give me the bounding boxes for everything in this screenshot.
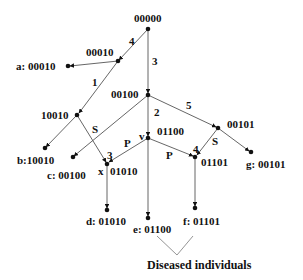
leaf-e [146,216,151,221]
node-00100 [146,93,151,98]
edge-00010-a [70,61,118,66]
label-00100: 00100 [111,89,139,100]
edge-label-00010-10010: 1 [92,77,98,88]
edge-label-v-x-p: P [124,138,131,149]
label-01100: 01100 [157,126,184,137]
edge-label-root-00010: 4 [129,36,135,47]
node-x [105,162,110,167]
leaf-b [43,146,48,151]
label-leaf-e: e: 01100 [133,224,171,235]
edge-label-00101-01101-s: S [212,136,218,147]
edge-00010-10010 [79,61,118,113]
edge-00101-g [218,128,249,151]
edge-label-v-01101-p: P [166,150,173,161]
edge-label-00100-00101: 5 [186,100,192,111]
label-01101: 01101 [201,157,228,168]
node-10010 [75,113,80,118]
node-root [146,27,151,32]
node-v [146,136,151,141]
marker-v: v [139,131,145,142]
diseased-individuals-caption: Diseased individuals [147,259,251,271]
leaf-a [66,64,71,69]
label-leaf-f: f: 01101 [183,216,220,227]
leaf-d [105,208,110,213]
label-leaf-c: c: 00100 [47,170,86,181]
leaf-g [249,150,254,155]
leaf-c [71,155,76,160]
edge-label-root-00100: 3 [152,56,158,67]
label-01010: 01010 [110,166,138,177]
label-leaf-d: d: 01010 [86,216,126,227]
diagram-edges [0,0,303,280]
label-00010: 00010 [86,47,114,58]
diseased-bracket [157,236,193,255]
node-01101 [193,155,198,160]
edge-label-v-x-num: 3 [107,150,113,161]
node-00101 [216,126,221,131]
label-leaf-a: a: 00010 [16,61,55,72]
marker-x: x [98,166,104,177]
leaf-f [193,206,198,211]
node-00010 [116,59,121,64]
edge-label-00101-01101-num: 4 [193,144,199,155]
edge-label-00100-v: 2 [154,107,160,118]
edge-label-10010-x: S [92,124,98,135]
label-leaf-b: b:10010 [17,155,54,166]
label-00101: 00101 [227,119,255,130]
phylogeny-diagram: 00000 00010 10010 00100 v 01100 00101 x … [0,0,303,280]
label-leaf-g: g: 00101 [246,159,285,170]
label-root: 00000 [134,13,162,24]
label-10010: 10010 [41,110,69,121]
